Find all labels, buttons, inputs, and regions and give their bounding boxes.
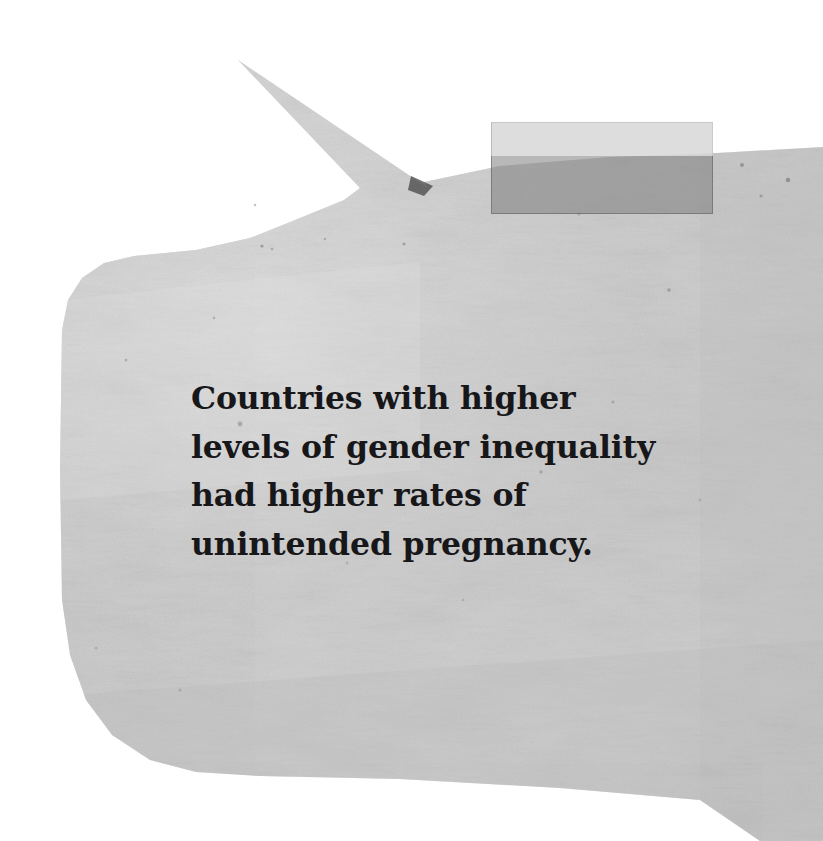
tape-upper-half: [491, 122, 713, 156]
note-text: Countries with higher levels of gender i…: [191, 374, 711, 568]
note-canvas: Countries with higher levels of gender i…: [0, 0, 823, 841]
tape-lower-half: [491, 156, 713, 214]
tape-strip: [491, 122, 713, 214]
